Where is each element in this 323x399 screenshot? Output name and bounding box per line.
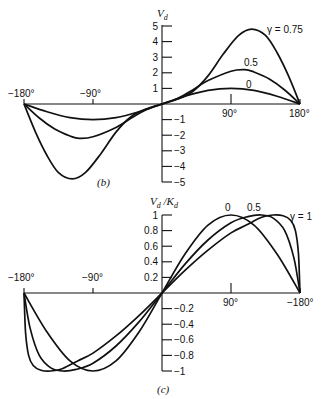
y-tick-label: 0.6 <box>144 241 158 252</box>
x-tick-label-c: −180° <box>287 297 314 308</box>
series-label-b-0: 0 <box>246 79 252 90</box>
y-tick-label: −2 <box>174 130 186 141</box>
y-tick-label: −0.2 <box>174 303 194 314</box>
y-tick-label: 5 <box>152 21 158 32</box>
y-axis-label-b: Vd <box>157 7 169 22</box>
x-tick-label-b: 180° <box>289 108 310 119</box>
y-tick-label: 2 <box>152 67 158 78</box>
y-tick-label: −1 <box>174 114 186 125</box>
y-tick-label: 1 <box>152 83 158 94</box>
series-label-b-075: γ = 0.75 <box>267 24 303 35</box>
y-tick-label: −0.6 <box>174 334 194 345</box>
y-tick-label: −1 <box>174 366 186 377</box>
y-tick-label: 3 <box>152 52 158 63</box>
y-tick-label: 0.4 <box>144 256 158 267</box>
figure: 54321−1−2−3−4−5 −180° −90° 90° 180° Vd γ… <box>0 0 323 399</box>
series-label-c-05: 0.5 <box>247 202 261 213</box>
panel-label-b: (b) <box>97 176 110 189</box>
chart-c: 10.80.60.40.2−0.2−0.4−0.6−0.8−1 −180° −9… <box>8 195 314 396</box>
x-tick-label-b: −180° <box>8 88 35 99</box>
x-tick-label-c: −180° <box>8 272 35 283</box>
x-tick-label-b: 90° <box>222 108 237 119</box>
panel-label-c: (c) <box>157 383 170 396</box>
y-tick-label: −0.8 <box>174 350 194 361</box>
x-tick-label-b: −90° <box>80 88 101 99</box>
y-tick-label: 0.2 <box>144 272 158 283</box>
x-tick-label-c: 90° <box>223 297 238 308</box>
y-axis-label-c: Vd /Kd <box>150 195 179 210</box>
y-tick-label: −0.4 <box>174 319 194 330</box>
chart-b: 54321−1−2−3−4−5 −180° −90° 90° 180° Vd γ… <box>8 7 310 189</box>
x-tick-label-c: −90° <box>82 272 103 283</box>
y-tick-label: 4 <box>152 36 158 47</box>
y-tick-label: 1 <box>152 210 158 221</box>
y-tick-label: −5 <box>174 177 186 188</box>
series-label-b-05: 0.5 <box>244 57 258 68</box>
y-tick-label: −3 <box>174 145 186 156</box>
series-label-c-1: γ = 1 <box>290 211 312 222</box>
y-tick-label: 0.8 <box>144 225 158 236</box>
series-label-c-0: 0 <box>225 202 231 213</box>
y-tick-label: −4 <box>174 161 186 172</box>
